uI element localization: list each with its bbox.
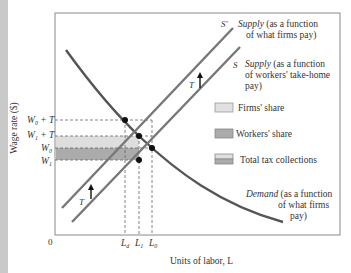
xtick-l0: L0: [148, 238, 157, 249]
ytick-w0-plus-t: W0 + T: [27, 115, 55, 126]
tax-label-lower: T: [79, 197, 85, 207]
ytick-w1-plus-t: W1 + T: [27, 130, 55, 141]
legend-label-firms: Firms' share: [238, 103, 284, 113]
demand-label-line3: pay): [290, 211, 307, 222]
legend-swatch-workers: [215, 129, 233, 138]
demand-label-line1: Demand (as a function: [245, 189, 333, 200]
tax-incidence-chart: Firms' share Workers' share Total tax co…: [0, 0, 351, 273]
x-axis-label: Units of labor, L: [170, 256, 233, 266]
y-axis-label: Wage rate ($): [9, 102, 20, 153]
supply-label-line3: pay): [245, 81, 262, 92]
supply-prime-line: [62, 28, 233, 208]
ytick-w1: W1: [41, 156, 52, 167]
firms-share-region: [56, 136, 139, 148]
s-prime-label: S': [221, 19, 229, 29]
supply-prime-label-line1: Supply (as a function: [238, 19, 318, 30]
supply-label-line2: of workers' take-home: [245, 70, 330, 80]
workers-share-region: [56, 148, 139, 160]
supply-label-line1: Supply (as a function: [245, 59, 325, 70]
supply-prime-label-line2: of what firms pay): [246, 30, 316, 41]
xtick-ld: Ld: [120, 238, 130, 249]
legend-label-workers: Workers' share: [236, 129, 292, 139]
legend-swatch-total: [215, 154, 233, 164]
origin-label: 0: [48, 237, 53, 247]
tax-shift-arrow-lower: [88, 184, 94, 199]
ytick-w0: W0: [41, 143, 52, 154]
legend-swatch-firms: [215, 103, 233, 112]
s-label: S: [233, 60, 238, 70]
tax-label-upper: T: [189, 80, 195, 90]
demand-label-line2: of what firms: [278, 200, 329, 210]
legend-label-total: Total tax collections: [240, 155, 317, 165]
xtick-l1: L1: [134, 238, 143, 249]
